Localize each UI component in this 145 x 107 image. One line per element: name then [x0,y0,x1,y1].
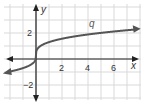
y-tick-label: −2 [23,80,33,90]
x-axis-label: x [130,60,137,71]
y-axis-label: y [40,4,47,15]
x-axis [6,56,139,62]
x-tick-label: 6 [111,63,116,73]
y-tick-label: 2 [27,28,32,38]
x-tick-label: 2 [59,63,64,73]
curve-label-q: q [89,18,95,29]
graph: 2462−2 y x q [0,0,145,107]
x-tick-label: 4 [85,63,90,73]
